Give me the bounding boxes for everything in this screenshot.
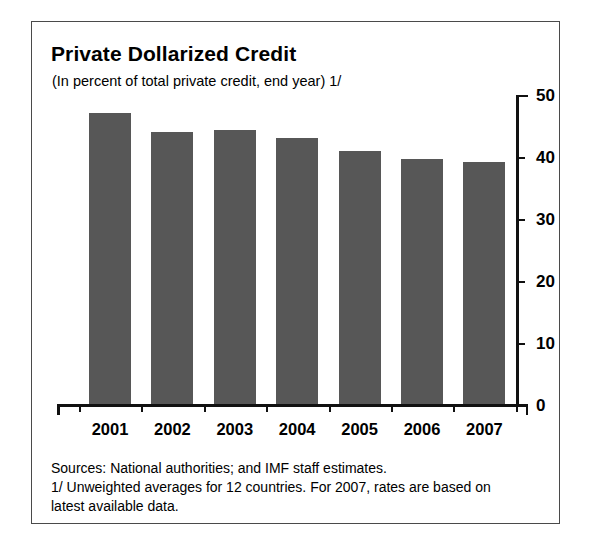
page-title: Private Dollarized Credit xyxy=(51,42,296,66)
y-tick-20 xyxy=(516,281,525,284)
x-tick-4 xyxy=(329,404,331,412)
y-tick-label-30: 30 xyxy=(536,210,555,230)
x-axis-line xyxy=(57,404,528,407)
x-axis-label-2006: 2006 xyxy=(391,420,453,439)
x-axis-label-2001: 2001 xyxy=(79,420,141,439)
y-tick-label-50: 50 xyxy=(536,86,555,106)
y-tick-10 xyxy=(516,343,525,346)
bar-slot-2007 xyxy=(453,96,515,406)
y-tick-label-0: 0 xyxy=(536,396,545,416)
y-tick-label-20: 20 xyxy=(536,272,555,292)
y-axis: 01020304050 xyxy=(516,96,528,406)
bar-2003 xyxy=(214,130,256,406)
x-axis-label-2007: 2007 xyxy=(453,420,515,439)
figure-notes: Sources: National authorities; and IMF s… xyxy=(51,459,527,516)
y-tick-30 xyxy=(516,219,525,222)
x-axis-end-cap-right xyxy=(526,404,529,415)
y-tick-40 xyxy=(516,157,525,160)
bar-slot-2001 xyxy=(79,96,141,406)
x-axis-end-cap-left xyxy=(57,404,60,415)
y-tick-label-10: 10 xyxy=(536,334,555,354)
bar-slot-2003 xyxy=(204,96,266,406)
x-axis xyxy=(57,404,528,416)
bar-2006 xyxy=(401,159,443,406)
bar-2005 xyxy=(339,151,381,406)
x-tick-0 xyxy=(79,404,81,412)
x-tick-3 xyxy=(266,404,268,412)
x-tick-1 xyxy=(141,404,143,412)
x-axis-label-2002: 2002 xyxy=(141,420,203,439)
bar-slot-2005 xyxy=(329,96,391,406)
x-tick-6 xyxy=(453,404,455,412)
bar-2001 xyxy=(89,113,131,406)
y-tick-50 xyxy=(516,95,528,98)
bar-slot-2004 xyxy=(266,96,328,406)
footnote: 1/ Unweighted averages for 12 countries.… xyxy=(51,478,527,516)
x-tick-7 xyxy=(516,404,518,412)
x-tick-5 xyxy=(391,404,393,412)
bar-slot-2006 xyxy=(391,96,453,406)
x-axis-labels: 2001200220032004200520062007 xyxy=(79,420,516,446)
x-axis-label-2005: 2005 xyxy=(329,420,391,439)
bars-layer xyxy=(79,96,516,406)
source-note: Sources: National authorities; and IMF s… xyxy=(51,459,527,478)
x-tick-2 xyxy=(204,404,206,412)
bar-2007 xyxy=(463,162,505,406)
bar-slot-2002 xyxy=(141,96,203,406)
bar-2004 xyxy=(276,138,318,406)
y-tick-label-40: 40 xyxy=(536,148,555,168)
chart-subtitle: (In percent of total private credit, end… xyxy=(52,73,341,89)
plot-area: 01020304050 xyxy=(57,96,528,406)
figure-frame: Private Dollarized Credit (In percent of… xyxy=(31,21,560,524)
y-axis-line xyxy=(516,96,519,406)
bar-2002 xyxy=(151,132,193,406)
x-axis-label-2004: 2004 xyxy=(266,420,328,439)
x-axis-label-2003: 2003 xyxy=(204,420,266,439)
